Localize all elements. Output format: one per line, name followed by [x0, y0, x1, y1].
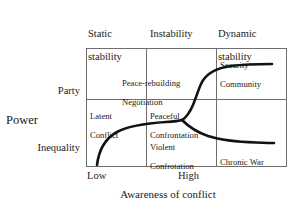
cell-label-security-community-line1: Security	[220, 60, 249, 70]
y-axis-tick-inequality: Inequality	[10, 142, 80, 154]
column-header-dynamic-stability-line1: Dynamic	[218, 28, 257, 39]
y-axis-title: Power	[6, 113, 64, 127]
cell-label-chronic-war: Chronic War	[220, 148, 286, 167]
cell-label-security-community-line2: Community	[220, 79, 261, 89]
cell-label-violent-confrotation: Violent Confrotation	[150, 133, 220, 172]
x-axis-title: Awareness of conflict	[78, 188, 258, 200]
x-axis-tick-high: High	[178, 170, 218, 182]
cell-label-peaceful-confrontation-line1: Peaceful	[150, 111, 180, 121]
cell-label-violent-confrotation-line1: Violent	[150, 142, 175, 152]
cell-label-chronic-war-line1: Chronic War	[220, 157, 264, 167]
cell-label-latent-conflict: Latent Conflict	[90, 102, 146, 141]
column-header-instability-line1: Instability	[150, 28, 193, 39]
x-axis-tick-low: Low	[87, 170, 127, 182]
cell-label-peace-rebuilding-line1: Peace-rebuilding	[122, 78, 180, 88]
diagram-canvas: Static stability Instability Dynamic sta…	[0, 0, 294, 208]
cell-label-violent-confrotation-line2: Confrotation	[150, 161, 194, 171]
cell-label-latent-conflict-line2: Conflict	[90, 130, 118, 140]
column-header-instability: Instability	[150, 16, 212, 40]
y-axis-tick-party: Party	[22, 85, 80, 97]
column-header-static-stability-line1: Static	[88, 28, 112, 39]
cell-label-latent-conflict-line1: Latent	[90, 111, 112, 121]
matrix-plot-area: Security Community Peace-rebuilding Nego…	[86, 48, 287, 167]
cell-label-security-community: Security Community	[220, 51, 286, 90]
